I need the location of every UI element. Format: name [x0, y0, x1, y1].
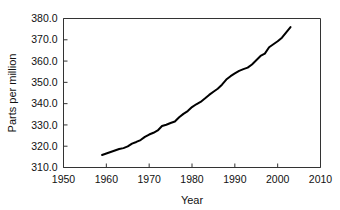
x-tick-label-1950: 1950 [52, 173, 76, 185]
y-axis-tick-labels: 310.0320.0330.0340.0350.0360.0370.0380.0 [31, 12, 57, 173]
y-axis-title: Parts per million [6, 54, 18, 133]
x-tick-label-1960: 1960 [95, 173, 119, 185]
co2-concentration-chart: 1950196019701980199020002010 310.0320.03… [0, 0, 340, 210]
x-tick-label-1980: 1980 [180, 173, 204, 185]
y-tick-label-330.0: 330.0 [31, 119, 57, 131]
y-tick-label-380.0: 380.0 [31, 12, 57, 24]
x-tick-label-2000: 2000 [266, 173, 290, 185]
plot-frame [64, 19, 321, 168]
co2-trend-line [102, 27, 290, 155]
y-tick-label-350.0: 350.0 [31, 76, 57, 88]
y-tick-label-320.0: 320.0 [31, 140, 57, 152]
axis-frame-lines [64, 19, 321, 168]
x-tick-label-1990: 1990 [223, 173, 247, 185]
chart-canvas: 1950196019701980199020002010 310.0320.03… [0, 0, 340, 210]
x-axis-tick-marks [64, 164, 321, 168]
data-series-group [102, 27, 290, 155]
y-axis-tick-marks [64, 19, 68, 168]
y-tick-label-310.0: 310.0 [31, 161, 57, 173]
x-tick-label-2010: 2010 [309, 173, 333, 185]
y-tick-label-340.0: 340.0 [31, 97, 57, 109]
x-axis-tick-labels: 1950196019701980199020002010 [52, 173, 333, 185]
y-tick-label-360.0: 360.0 [31, 55, 57, 67]
y-tick-label-370.0: 370.0 [31, 33, 57, 45]
x-axis-title: Year [181, 194, 204, 206]
x-tick-label-1970: 1970 [137, 173, 161, 185]
